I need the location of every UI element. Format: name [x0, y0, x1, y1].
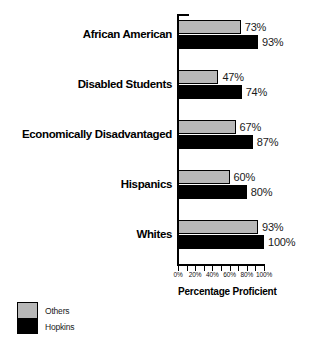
bar-value-label: 100% [268, 237, 295, 248]
bar-hopkins [178, 135, 253, 149]
x-axis-tick-label: 0% [173, 272, 182, 279]
bar-hopkins [178, 235, 264, 249]
bar-value-label: 80% [251, 187, 272, 198]
category-label: African American [6, 29, 178, 41]
bar-others [178, 70, 218, 84]
bar-value-label: 93% [262, 222, 283, 233]
category-label: Economically Disadvantaged [6, 129, 178, 141]
bar-hopkins [178, 85, 242, 99]
x-axis-tick-label: 60% [223, 272, 236, 279]
category-label: Disabled Students [6, 79, 178, 91]
x-axis-tick [238, 266, 239, 271]
bar-hopkins [178, 35, 258, 49]
bar-value-label: 74% [246, 87, 267, 98]
legend-label-others: Others [45, 307, 69, 316]
legend-swatch-hopkins [18, 318, 37, 333]
plot-area: 73%93%47%74%67%87%60%80%93%100% [178, 14, 264, 264]
legend-swatch [17, 302, 38, 334]
chart-legend: Others Hopkins [17, 302, 137, 340]
category-axis-labels: African AmericanDisabled StudentsEconomi… [0, 14, 178, 264]
x-axis-tick-label: 40% [206, 272, 219, 279]
bar-value-label: 60% [234, 172, 255, 183]
bar-value-label: 67% [240, 122, 261, 133]
bar-group: 73%93% [178, 20, 264, 50]
bar-group: 47%74% [178, 70, 264, 100]
bar-group: 93%100% [178, 220, 264, 250]
category-label: Hispanics [6, 179, 178, 191]
bar-others [178, 220, 258, 234]
x-axis-tick-label: 100% [256, 272, 272, 279]
category-label: Whites [6, 229, 178, 241]
bar-others [178, 170, 230, 184]
bar-others [178, 20, 241, 34]
bar-others [178, 120, 236, 134]
x-axis-title: Percentage Proficient [178, 286, 268, 297]
bar-value-label: 87% [257, 137, 278, 148]
bar-hopkins [178, 185, 247, 199]
bar-group: 60%80% [178, 170, 264, 200]
bar-value-label: 73% [245, 22, 266, 33]
legend-label-hopkins: Hopkins [45, 323, 74, 332]
legend-swatch-others [18, 303, 37, 318]
bar-chart: African AmericanDisabled StudentsEconomi… [0, 0, 331, 356]
bar-value-label: 93% [262, 37, 283, 48]
x-axis-tick [204, 266, 205, 271]
x-axis-tick [187, 266, 188, 271]
bar-group: 67%87% [178, 120, 264, 150]
bar-value-label: 47% [222, 72, 243, 83]
x-axis-tick-label: 80% [240, 272, 253, 279]
x-axis-tick [221, 266, 222, 271]
x-axis-tick-label: 20% [189, 272, 202, 279]
